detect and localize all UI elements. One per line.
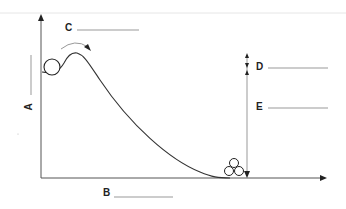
e-down-arrow-icon [244, 171, 250, 178]
label-b: B [103, 187, 110, 198]
diagram-canvas: A B C D E [0, 0, 346, 209]
motion-arc [61, 43, 88, 49]
ball-top [44, 59, 60, 75]
ball-stack-right [235, 167, 244, 176]
label-a: A [23, 103, 34, 110]
label-d: D [256, 61, 263, 72]
label-e: E [256, 101, 263, 112]
track-curve [42, 53, 230, 178]
y-axis-arrow-icon [38, 14, 44, 21]
ball-stack-top [230, 159, 239, 168]
e-up-arrow-icon [245, 70, 249, 75]
d-up-arrow-icon [245, 53, 249, 58]
d-down-arrow-icon [245, 63, 249, 68]
x-axis-arrow-icon [320, 175, 327, 181]
ball-stack-left [225, 167, 234, 176]
dot-mark [18, 134, 19, 135]
label-c: C [65, 22, 72, 33]
